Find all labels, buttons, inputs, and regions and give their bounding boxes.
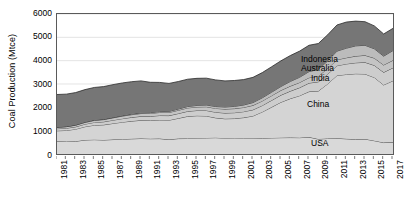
coal-production-stacked-area-chart: Coal Production (Mtce) 6000 5000 4000 30… bbox=[0, 0, 405, 204]
x-tick-2003: 2003 bbox=[265, 160, 274, 179]
y-tick-6000: 6000 bbox=[14, 9, 52, 17]
y-axis-tick-labels: 6000 5000 4000 3000 2000 1000 0 bbox=[14, 0, 52, 204]
x-tick-1995: 1995 bbox=[191, 160, 200, 179]
y-tick-4000: 4000 bbox=[14, 56, 52, 64]
x-tick-1993: 1993 bbox=[172, 160, 181, 179]
y-tick-3000: 3000 bbox=[14, 80, 52, 88]
y-tick-2000: 2000 bbox=[14, 103, 52, 111]
series-label-other: Other bbox=[279, 28, 302, 38]
x-tick-2009: 2009 bbox=[321, 160, 330, 179]
y-tick-1000: 1000 bbox=[14, 127, 52, 135]
x-tick-2013: 2013 bbox=[359, 160, 368, 179]
stacked-area-svg bbox=[57, 14, 393, 154]
x-axis-ticks bbox=[56, 156, 394, 160]
x-tick-1999: 1999 bbox=[228, 160, 237, 179]
series-label-india: India bbox=[311, 73, 329, 83]
plot-area: Other Indonesia Australia India China US… bbox=[56, 13, 394, 155]
x-tick-1985: 1985 bbox=[97, 160, 106, 179]
x-tick-1987: 1987 bbox=[116, 160, 125, 179]
x-tick-2011: 2011 bbox=[340, 160, 349, 178]
x-tick-1997: 1997 bbox=[209, 160, 218, 179]
series-label-china: China bbox=[307, 99, 329, 109]
series-label-australia: Australia bbox=[301, 63, 334, 73]
x-tick-1989: 1989 bbox=[135, 160, 144, 179]
x-tick-2007: 2007 bbox=[303, 160, 312, 179]
x-tick-1991: 1991 bbox=[153, 160, 162, 179]
x-tick-1983: 1983 bbox=[79, 160, 88, 179]
x-tick-2015: 2015 bbox=[377, 160, 386, 179]
x-tick-1981: 1981 bbox=[60, 160, 69, 179]
y-tick-0: 0 bbox=[14, 151, 52, 159]
x-axis-tick-labels: 1981198319851987198919911993199519971999… bbox=[56, 156, 394, 204]
series-label-usa: USA bbox=[311, 138, 328, 148]
x-tick-2005: 2005 bbox=[284, 160, 293, 179]
x-tick-2017: 2017 bbox=[396, 160, 405, 179]
y-tick-5000: 5000 bbox=[14, 32, 52, 40]
x-tick-2001: 2001 bbox=[247, 160, 256, 179]
